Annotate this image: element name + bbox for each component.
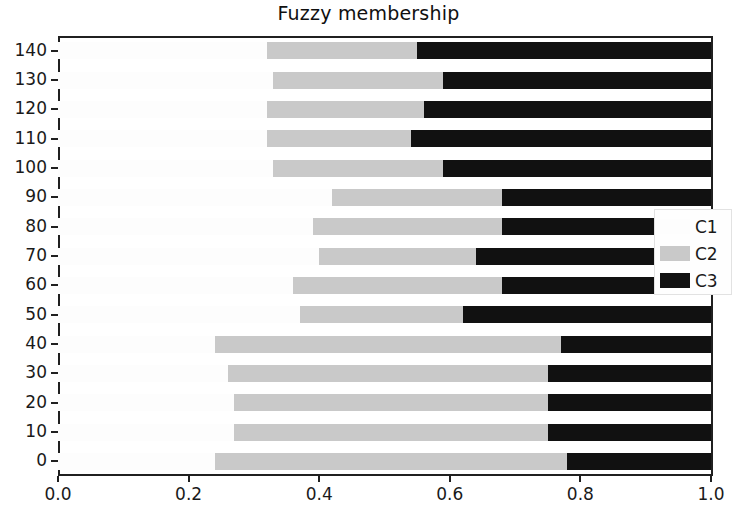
legend-swatch-c1 bbox=[660, 219, 690, 234]
legend-item-c2[interactable]: C2 bbox=[660, 246, 730, 263]
bar-segment-c2 bbox=[313, 218, 502, 235]
x-axis-label: 1.0 bbox=[676, 484, 737, 504]
bar-segment-c2 bbox=[332, 189, 502, 206]
x-axis-tick bbox=[579, 476, 581, 482]
bar-row bbox=[0, 306, 737, 323]
legend-swatch-c2 bbox=[660, 246, 690, 261]
bar-segment-c2 bbox=[300, 306, 463, 323]
bar-segment-c1 bbox=[58, 424, 234, 441]
x-axis-label: 0.8 bbox=[545, 484, 615, 504]
x-axis-tick bbox=[449, 476, 451, 482]
bar-segment-c2 bbox=[215, 336, 561, 353]
bar-segment-c1 bbox=[58, 130, 267, 147]
bar-row bbox=[0, 189, 737, 206]
bar-segment-c3 bbox=[411, 130, 711, 147]
bar-segment-c2 bbox=[273, 160, 443, 177]
legend-label-c3: C3 bbox=[695, 271, 718, 291]
bar-segment-c2 bbox=[267, 101, 424, 118]
bar-segment-c3 bbox=[502, 189, 711, 206]
legend-item-c1[interactable]: C1 bbox=[660, 219, 730, 236]
bar-segment-c3 bbox=[443, 160, 711, 177]
bar-segment-c1 bbox=[58, 453, 215, 470]
bar-row bbox=[0, 248, 737, 265]
chart-title: Fuzzy membership bbox=[0, 2, 737, 24]
bar-row bbox=[0, 336, 737, 353]
bar-segment-c3 bbox=[463, 306, 711, 323]
bar-row bbox=[0, 365, 737, 382]
bar-segment-c1 bbox=[58, 306, 300, 323]
x-axis-label: 0.6 bbox=[415, 484, 485, 504]
bar-segment-c1 bbox=[58, 248, 319, 265]
bar-segment-c3 bbox=[567, 453, 711, 470]
x-axis-tick bbox=[188, 476, 190, 482]
bar-segment-c2 bbox=[234, 394, 547, 411]
x-axis-label: 0.0 bbox=[23, 484, 93, 504]
bar-segment-c2 bbox=[319, 248, 476, 265]
bar-segment-c1 bbox=[58, 72, 273, 89]
bar-segment-c3 bbox=[548, 424, 711, 441]
bar-segment-c2 bbox=[293, 277, 502, 294]
bar-row bbox=[0, 424, 737, 441]
bar-segment-c1 bbox=[58, 218, 313, 235]
bar-segment-c1 bbox=[58, 365, 228, 382]
bar-row bbox=[0, 394, 737, 411]
bar-segment-c1 bbox=[58, 160, 273, 177]
bar-segment-c2 bbox=[228, 365, 548, 382]
bar-segment-c1 bbox=[58, 336, 215, 353]
bar-segment-c3 bbox=[548, 365, 711, 382]
x-axis-label: 0.4 bbox=[284, 484, 354, 504]
bar-segment-c2 bbox=[267, 130, 411, 147]
bar-row bbox=[0, 72, 737, 89]
bar-segment-c1 bbox=[58, 42, 267, 59]
x-axis-tick bbox=[318, 476, 320, 482]
x-axis-label: 0.2 bbox=[154, 484, 224, 504]
bar-segment-c3 bbox=[548, 394, 711, 411]
bar-row bbox=[0, 277, 737, 294]
bar-row bbox=[0, 101, 737, 118]
bar-row bbox=[0, 218, 737, 235]
bar-segment-c2 bbox=[267, 42, 417, 59]
bar-row bbox=[0, 160, 737, 177]
x-axis-tick bbox=[57, 476, 59, 482]
bar-segment-c1 bbox=[58, 394, 234, 411]
bar-segment-c1 bbox=[58, 277, 293, 294]
legend-label-c2: C2 bbox=[695, 244, 718, 264]
bar-row bbox=[0, 42, 737, 59]
bar-segment-c1 bbox=[58, 189, 332, 206]
bar-segment-c3 bbox=[561, 336, 711, 353]
x-axis-tick bbox=[710, 476, 712, 482]
bar-segment-c2 bbox=[215, 453, 568, 470]
bar-row bbox=[0, 130, 737, 147]
chart-legend: C1C2C3 bbox=[654, 209, 732, 295]
bar-segment-c3 bbox=[443, 72, 711, 89]
bar-segment-c2 bbox=[234, 424, 547, 441]
legend-item-c3[interactable]: C3 bbox=[660, 273, 730, 290]
chart-figure: Fuzzy membership 01020304050607080901001… bbox=[0, 0, 737, 512]
bar-segment-c1 bbox=[58, 101, 267, 118]
bar-row bbox=[0, 453, 737, 470]
bar-segment-c3 bbox=[417, 42, 711, 59]
bar-segment-c3 bbox=[424, 101, 711, 118]
legend-swatch-c3 bbox=[660, 273, 690, 288]
legend-label-c1: C1 bbox=[695, 217, 718, 237]
bar-segment-c2 bbox=[273, 72, 443, 89]
